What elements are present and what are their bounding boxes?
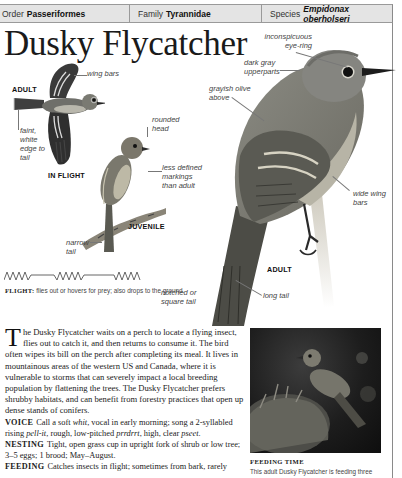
feeding-photo [250, 328, 381, 453]
species-cell: Species Empidonax oberholseri [261, 5, 392, 22]
family-value: Tyrannidae [166, 9, 211, 19]
annotation-wide-wing-bars: wide wing bars [353, 189, 389, 207]
feeding-text: Catches insects in flight; sometimes fro… [47, 462, 227, 471]
nesting-heading: NESTING [5, 440, 44, 449]
voice-song: pell-it [26, 429, 46, 438]
voice-text: Call a soft [36, 418, 73, 427]
flight-description: FLIGHT: flies out or hovers for prey; al… [5, 286, 205, 296]
annotation-white-edge-tail: faint, white edge to tail [20, 126, 46, 162]
taxonomy-bar: Order Passeriformes Family Tyrannidae Sp… [0, 4, 393, 23]
nesting-section: NESTINGTight, open grass cup in upright … [5, 439, 247, 461]
annotation-wing-bars: wing bars [87, 69, 119, 78]
photo-scene [250, 328, 381, 453]
family-cell: Family Tyrannidae [129, 5, 261, 22]
adult-bird-illustration [200, 36, 396, 326]
leader-line [148, 171, 162, 172]
voice-song: prrdrrt [116, 429, 139, 438]
leader-line [74, 75, 87, 76]
voice-section: VOICECall a soft whit, vocal in early mo… [5, 417, 247, 439]
drop-cap: T [5, 328, 21, 348]
species-value: Empidonax oberholseri [303, 4, 392, 24]
flight-pattern-icon [4, 271, 144, 281]
leader-line [147, 127, 148, 137]
flight-text: flies out or hovers for prey; also drops… [36, 287, 184, 294]
annotation-less-defined-markings: less defined markings than adult [162, 163, 204, 190]
voice-song: pseet [181, 429, 198, 438]
annotation-dark-gray-upperparts: dark gray upperparts [244, 58, 284, 76]
order-cell: Order Passeriformes [0, 5, 129, 22]
family-label: Family [138, 9, 163, 19]
photo-caption-title: FEEDING TIME [250, 458, 304, 465]
intro-paragraph: he Dusky Flycatcher waits on a perch to … [5, 327, 243, 415]
annotation-rounded-head: rounded head [152, 115, 182, 133]
feeding-heading: FEEDING [5, 462, 44, 471]
feeding-section: FEEDINGCatches insects in flight; someti… [5, 461, 247, 472]
order-label: Order [2, 9, 24, 19]
adult-label: ADULT [267, 265, 292, 274]
annotation-eye-ring: inconspicuous eye-ring [260, 32, 312, 50]
in-flight-adult-label: ADULT [12, 85, 37, 94]
voice-text: , high, clear [140, 429, 182, 438]
species-label: Species [270, 9, 300, 19]
annotation-grayish-olive: grayish olive above [209, 84, 255, 102]
photo-caption-text: This adult Dusky Flycatcher is feeding t… [250, 468, 372, 475]
leader-line [280, 70, 300, 71]
voice-text: , rough, low-pitched [46, 429, 116, 438]
leader-line [90, 242, 102, 243]
juvenile-label: JUVENILE [128, 222, 165, 231]
annotation-long-tail: long tail [263, 291, 289, 300]
voice-call: whit [73, 418, 87, 427]
voice-heading: VOICE [5, 418, 33, 427]
voice-text: . [199, 429, 201, 438]
annotation-narrow-tail: narrow tail [66, 238, 92, 256]
flight-label: FLIGHT: [5, 287, 34, 294]
leader-line [18, 110, 19, 130]
species-description: The Dusky Flycatcher waits on a perch to… [5, 327, 247, 473]
order-value: Passeriformes [27, 9, 86, 19]
